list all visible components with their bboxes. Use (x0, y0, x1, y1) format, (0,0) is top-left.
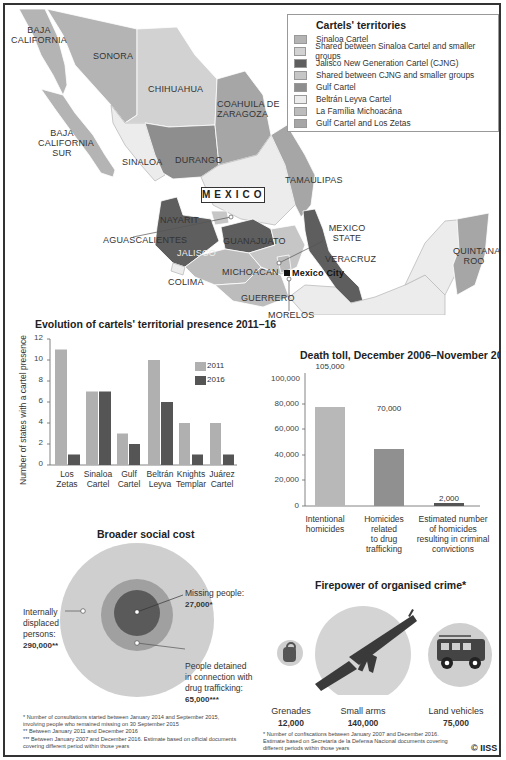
missing-annotation: Missing people:27,000* (185, 588, 244, 610)
label-colima: COLIMA (168, 277, 204, 287)
label-coahuila: COAHUILA DE ZARAGOZA (217, 99, 267, 119)
label-sonora: SONORA (93, 51, 133, 61)
state-chihuahua (125, 27, 217, 127)
infographic: BAJA CALIFORNIA SONORA CHIHUAHUA COAHUIL… (3, 3, 501, 757)
y-tick: 60,000 (271, 424, 299, 433)
legend-swatch (294, 95, 307, 104)
legend-swatch (294, 83, 307, 92)
legend-item: La Família Michoacána (294, 105, 492, 117)
category-label: Homicidesrelatedto drugtrafficking (359, 514, 409, 554)
legend-2016: 2016 (207, 375, 225, 384)
label-aguascalientes: AGUASCALIENTES (103, 235, 187, 245)
y-tick: 4 (27, 417, 43, 426)
legend-swatch (294, 35, 307, 44)
y-tick: 6 (27, 396, 43, 405)
legend-swatch (294, 119, 307, 128)
legend-label: La Família Michoacána (316, 106, 402, 116)
bar-value: 70,000 (369, 404, 409, 413)
legend-item: Shared between Sinaloa Cartel and smalle… (294, 45, 492, 57)
y-tick: 0 (27, 459, 43, 468)
legend-label: Gulf Cartel (316, 82, 356, 92)
label-nayarit: NAYARIT (160, 215, 199, 225)
label-sinaloa: SINALOA (122, 157, 162, 167)
legend-item: Shared between CJNG and smaller groups (294, 69, 492, 81)
social-footnotes: * Number of consultations started betwee… (23, 714, 263, 750)
label-jalisco: JALISCO (177, 248, 216, 258)
legend-swatch (294, 71, 307, 80)
legend-swatch (294, 107, 307, 116)
land-vehicles-label: Land vehicles75,000 (424, 705, 488, 729)
legend-label: Beltrán Leyva Cartel (316, 94, 391, 104)
y-tick: 2 (27, 438, 43, 447)
label-mexico-state: MEXICO STATE (327, 223, 367, 243)
y-tick: 80,000 (271, 399, 299, 408)
category-label: Intentionalhomicides (295, 514, 355, 534)
label-veracruz: VERACRUZ (325, 254, 376, 264)
small-arms-label: Small arms140,000 (338, 705, 388, 729)
bar-chart-2-title: Death toll, December 2006–November 2012 (300, 349, 501, 361)
label-quintana-roo: QUINTANA ROO (453, 246, 495, 266)
label-guanajuato: GUANAJUATO (223, 236, 286, 246)
label-michoacan: MICHOACAN (222, 267, 279, 277)
bar-chart-2 (275, 365, 501, 515)
legend-label: Jalisco New Generation Cartel (CJNG) (316, 58, 458, 68)
label-guerrero: GUERRERO (241, 293, 295, 303)
legend-swatch (294, 47, 306, 56)
firepower-footnotes: * Number of confiscations between Januar… (263, 731, 463, 753)
state-south (289, 275, 445, 315)
y-tick: 12 (27, 333, 43, 342)
bar-value: 105,000 (310, 362, 350, 371)
legend-title: Cartels' territories (316, 19, 492, 31)
label-mexico-city: Mexico City (292, 268, 344, 278)
legend-label: Shared between CJNG and smaller groups (316, 70, 474, 80)
label-baja-california-sur: BAJA CALIFORNIA SUR (38, 128, 86, 158)
legend-2011: 2011 (207, 361, 224, 370)
legend-item: Beltrán Leyva Cartel (294, 93, 492, 105)
firepower-circles (265, 585, 501, 695)
legend-label: Gulf Cartel and Los Zetas (316, 118, 411, 128)
country-label: MEXICO (201, 187, 265, 203)
legend-swatch (294, 59, 307, 68)
category-label: JuárezCartel (202, 469, 242, 489)
map-legend: Cartels' territories Sinaloa Cartel Shar… (287, 14, 499, 132)
y-tick: 10 (27, 354, 43, 363)
idp-annotation: Internallydisplacedpersons:290,000** (23, 607, 59, 651)
bar-chart-1 (5, 325, 265, 475)
label-baja-california: BAJA CALIFORNIA (11, 25, 67, 45)
detained-annotation: People detainedin connection withdrug tr… (185, 661, 253, 705)
legend-item: Gulf Cartel (294, 81, 492, 93)
grenades-label: Grenades12,000 (269, 705, 313, 729)
y-tick: 0 (271, 501, 299, 510)
legend-item: Gulf Cartel and Los Zetas (294, 117, 492, 129)
label-tamaulipas: TAMAULIPAS (285, 175, 343, 185)
y-tick: 20,000 (271, 475, 299, 484)
label-chihuahua: CHIHUAHUA (148, 84, 203, 94)
y-tick: 40,000 (271, 450, 299, 459)
y-tick: 100,000 (271, 374, 299, 383)
label-durango: DURANGO (175, 155, 222, 165)
bar-value: 2,000 (429, 494, 469, 503)
category-label: Estimated numberof homicidesresulting in… (413, 514, 493, 554)
iiss-credit: © IISS (471, 743, 497, 753)
y-tick: 8 (27, 375, 43, 384)
